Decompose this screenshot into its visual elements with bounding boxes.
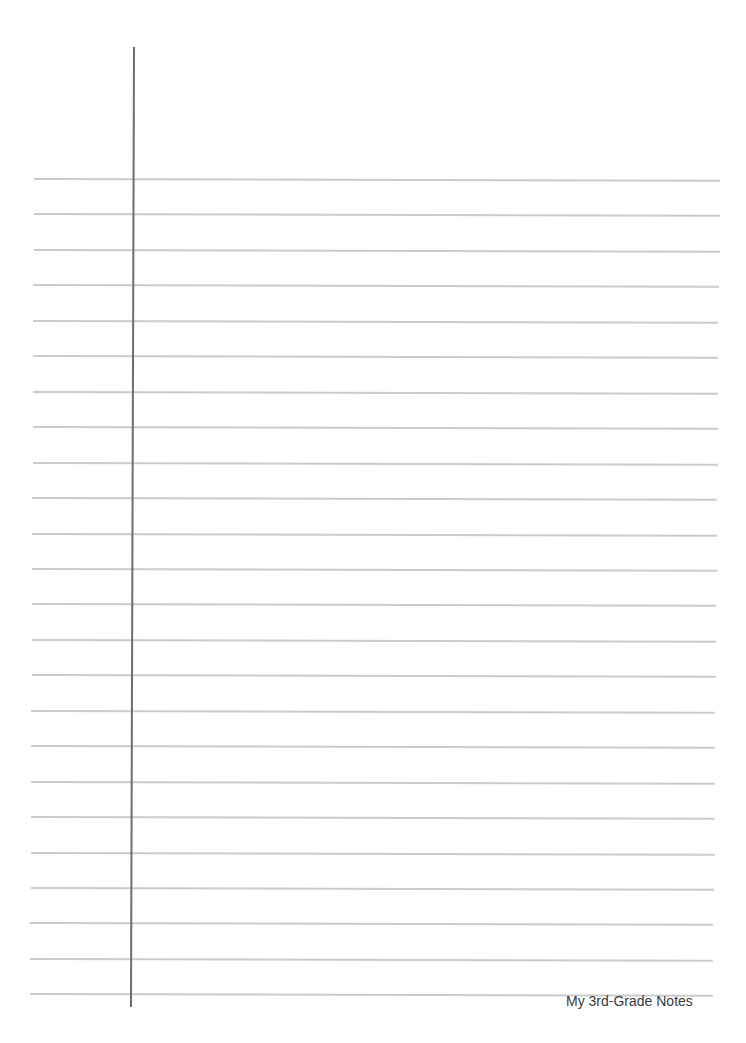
footer-title: My 3rd-Grade Notes — [566, 993, 693, 1009]
ruled-line — [32, 603, 716, 607]
ruled-line — [33, 355, 718, 359]
ruled-line — [34, 178, 720, 182]
ruled-line — [33, 320, 718, 324]
ruled-line — [33, 391, 718, 395]
ruled-line — [32, 497, 717, 501]
ruled-line — [30, 922, 713, 926]
notebook-page: My 3rd-Grade Notes — [0, 0, 746, 1043]
ruled-line — [33, 426, 718, 430]
ruled-line — [32, 568, 717, 572]
ruled-line — [32, 639, 716, 643]
ruled-line — [31, 745, 715, 749]
ruled-line — [31, 887, 714, 891]
ruled-line — [32, 533, 717, 537]
margin-line — [130, 47, 135, 1007]
ruled-line — [34, 249, 720, 253]
ruled-line — [34, 213, 720, 217]
ruled-line — [31, 852, 715, 856]
ruled-line — [31, 781, 715, 785]
ruled-line — [30, 958, 713, 962]
ruled-line — [31, 710, 715, 714]
ruled-line — [31, 816, 715, 820]
ruled-line — [33, 462, 718, 466]
ruled-line — [32, 674, 716, 678]
ruled-line — [33, 284, 719, 288]
